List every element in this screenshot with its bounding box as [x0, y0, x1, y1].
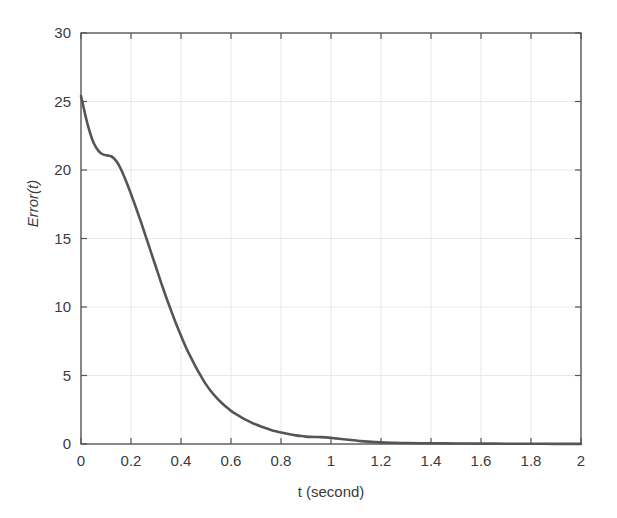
x-tick-label: 1.2 — [371, 452, 392, 469]
y-tick-label: 10 — [54, 298, 71, 315]
x-tick-label: 1.4 — [421, 452, 442, 469]
x-tick-label: 0.2 — [121, 452, 142, 469]
y-tick-label: 20 — [54, 161, 71, 178]
x-tick-label: 1 — [327, 452, 335, 469]
y-tick-label: 30 — [54, 24, 71, 41]
grid-lines — [81, 33, 581, 444]
x-tick-label: 0 — [77, 452, 85, 469]
x-tick-label: 1.6 — [471, 452, 492, 469]
y-tick-label: 5 — [63, 367, 71, 384]
figure-canvas: 00.20.40.60.811.21.41.61.82 051015202530… — [0, 0, 617, 518]
y-axis-title: Error(t) — [24, 180, 41, 228]
y-tick-labels: 051015202530 — [54, 24, 71, 452]
x-axis-title: t (second) — [298, 483, 365, 500]
x-tick-label: 0.4 — [171, 452, 192, 469]
x-tick-label: 2 — [577, 452, 585, 469]
error-vs-time-line-chart: 00.20.40.60.811.21.41.61.82 051015202530… — [0, 0, 617, 518]
x-tick-labels: 00.20.40.60.811.21.41.61.82 — [77, 452, 585, 469]
y-tick-label: 25 — [54, 93, 71, 110]
x-tick-label: 0.8 — [271, 452, 292, 469]
y-tick-label: 0 — [63, 435, 71, 452]
y-tick-label: 15 — [54, 230, 71, 247]
x-tick-label: 1.8 — [521, 452, 542, 469]
x-tick-label: 0.6 — [221, 452, 242, 469]
